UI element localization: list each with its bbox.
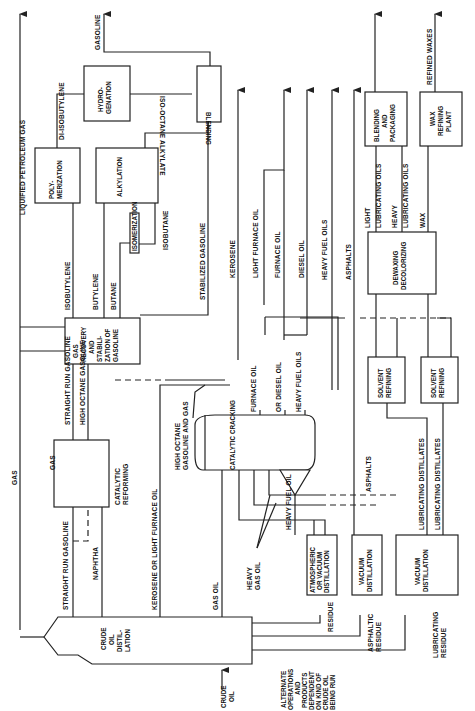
gas-recovery-label-4: STABILI- <box>96 336 103 362</box>
alkylate-label: ALKYLATE <box>159 140 166 176</box>
crude-label-2: OIL <box>108 634 115 645</box>
asphaltic-residue-label-2: RESIDUE <box>375 621 382 652</box>
hydrogenation-label-2: GENATION <box>105 81 112 114</box>
heavy-fuel-oils-label: HEAVY FUEL OILS <box>321 219 328 280</box>
gas-oil-label: GAS OIL <box>212 582 219 610</box>
wax-label: WAX <box>419 212 426 228</box>
gas-recovery-label-6: GASOLINE <box>112 329 119 362</box>
blending-packaging-label-3: PACKAGING <box>389 104 396 142</box>
crude-oil-label-2: OIL <box>228 691 235 702</box>
cc-diesel-label: OR DIESEL OIL <box>275 362 282 412</box>
heavy-gas-oil-label: HEAVY <box>246 567 253 590</box>
hydrogenation-label: HYDRO- <box>97 87 104 112</box>
catalytic-reforming-unit <box>54 440 109 507</box>
refinery-flow-diagram: LIQUIFIED PETROLEUM GAS GAS GASOLINE DI-… <box>0 0 475 711</box>
gasoline-label: GASOLINE <box>94 14 101 50</box>
blending-packaging-label: BLENDING <box>373 109 380 142</box>
polymerization-label: POLY- <box>48 181 55 199</box>
solvent2-label: SOLVENT <box>430 369 437 398</box>
catalytic-cracking-unit <box>195 415 315 470</box>
vacuum1-label: VACUUM <box>358 558 365 585</box>
vacuum2-label-2: DISTILLATION <box>422 549 429 592</box>
crude-distillation-unit <box>44 617 252 664</box>
vacuum1-label-2: DISTILLATION <box>366 549 373 592</box>
lub-dist-2-label: LUBRICATING DISTILLATES <box>434 437 441 530</box>
high-octane-gas-label: HIGH OCTANE <box>174 422 181 470</box>
alternate-ops-label: ALTERNATE <box>280 671 287 708</box>
straight-run-gasoline-lower-label: STRAIGHT RUN GASOLINE <box>62 520 69 610</box>
light-furnace-oil-label: LIGHT FURNACE OIL <box>252 209 259 278</box>
butane-label: BUTANE <box>110 282 117 310</box>
cc-furnace-oil-label: FURNACE OIL <box>250 365 257 412</box>
residue-label: RESIDUE <box>327 601 334 632</box>
asphalts-lower-label: ASPHALTS <box>365 455 372 492</box>
lub-oils-2-label: LUBRICATING OILS <box>402 163 409 228</box>
diesel-oil-label: DIESEL OIL <box>298 240 305 278</box>
heavy-gas-oil-label-2: GAS OIL <box>254 562 261 590</box>
alternate-ops-label-6: ON KIND OF <box>315 673 322 710</box>
solvent1-label-2: REFINING <box>385 368 392 398</box>
heavy-fuel-oil-label: HEAVY FUEL OIL <box>285 474 292 530</box>
blending-label: BLENDING <box>205 112 212 145</box>
lubricating-residue-label-2: RESIDUE <box>440 627 447 658</box>
gas-recovery-label-5: ZATION OF <box>104 328 111 362</box>
high-octane-gas-label-2: GASOLINE AND GAS <box>182 401 189 470</box>
catalytic-cracking-label: CATALYTIC CRACKING <box>229 400 236 470</box>
blending-packaging-label-2: AND <box>381 114 388 128</box>
isobutylene-label: ISOBUTYLENE <box>64 261 71 310</box>
butylene-label: BUTYLENE <box>92 273 99 310</box>
gas-label: GAS <box>11 470 18 485</box>
alternate-ops-label-8: BEING RUN <box>329 674 336 710</box>
kerosene-label: KEROSENE <box>229 239 236 278</box>
wax-plant-label: WAX <box>429 111 436 126</box>
atmospheric-label: ATMOSPHERIC <box>309 546 316 593</box>
dewaxing-label: DEWAXING <box>392 251 399 285</box>
crude-label: CRUDE <box>100 628 107 650</box>
wax-plant-label-3: PLANT <box>445 111 452 132</box>
catalytic-reforming-label: CATALYTIC <box>114 468 121 505</box>
lub-dist-1-label: LUBRICATING DISTILLATES <box>418 437 425 530</box>
cc-heavy-fuel-oils-label: HEAVY FUEL OILS <box>295 351 302 412</box>
atmospheric-label-2: OR VACUUM <box>316 552 323 590</box>
di-isobutylene-label: DI-ISOBUTYLENE <box>58 82 65 140</box>
gas-small-label: GAS <box>49 455 56 470</box>
solvent1-label: SOLVENT <box>377 369 384 398</box>
gasoline-arrow <box>104 14 210 66</box>
stabilized-link <box>140 306 208 315</box>
atmospheric-label-3: DISTILLATION <box>323 550 330 593</box>
asphaltic-residue-label: ASPHALTIC <box>367 613 374 652</box>
naphtha-label: NAPHTHA <box>92 547 99 580</box>
butane-line <box>120 243 130 318</box>
light-label: LIGHT <box>364 208 371 229</box>
kerosene-or-lfo-label: KEROSENE OR LIGHT FURNACE OIL <box>151 489 158 610</box>
furnace-oil-label: FURNACE OIL <box>274 231 281 278</box>
gas-recovery-label-3: AND <box>88 340 95 354</box>
dewaxing-label-2: DECOLORIZING <box>400 242 407 290</box>
alternate-ops-label-4: PRODUCTS <box>301 673 308 708</box>
straight-run-gasoline-label: STRAIGHT RUN GASOLINE <box>64 335 71 425</box>
alternate-ops-label-7: CRUDE OIL <box>322 675 329 710</box>
solvent2-label-2: REFINING <box>438 368 445 398</box>
alternate-ops-label-2: OPERATIONS <box>287 669 294 710</box>
asphalts-label: ASPHALTS <box>345 243 352 280</box>
lubricating-residue-label: LUBRICATING <box>432 612 439 659</box>
gas-recovery-label-2: RECOVERY <box>80 326 87 362</box>
wax-plant-label-2: REFINING <box>437 106 444 136</box>
iso-octane-label: ISO-OCTANE <box>159 96 166 139</box>
crude-oil-label: CRUDE <box>220 686 227 708</box>
alkylation-unit <box>96 148 158 203</box>
vacuum2-label: VACUUM <box>414 558 421 585</box>
heavy-label: HEAVY <box>391 205 398 228</box>
alternate-ops-label-5: DEPENDENT <box>308 671 315 710</box>
catalytic-reforming-label-2: REFORMING <box>122 463 129 505</box>
refined-waxes-label: REFINED WAXES <box>426 28 433 85</box>
alkylate-line <box>145 122 208 148</box>
lpg-label: LIQUIFIED PETROLEUM GAS <box>19 119 27 215</box>
isomerization-label: ISOMERIZATION <box>131 201 138 251</box>
crude-label-3: DISTIL- <box>116 630 123 652</box>
crude-label-4: LATION <box>124 629 131 652</box>
polymerization-label-2: MERIZATION <box>56 160 63 199</box>
isobutane-label: ISOBUTANE <box>162 210 169 250</box>
lub-oils-1-label: LUBRICATING OILS <box>375 163 382 228</box>
stabilized-gasoline-label: STABILIZED GASOLINE <box>199 222 206 300</box>
